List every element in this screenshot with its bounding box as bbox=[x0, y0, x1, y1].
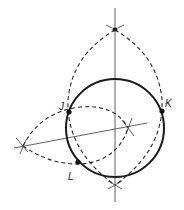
point-l bbox=[75, 159, 80, 164]
label-k: K bbox=[165, 98, 173, 109]
label-j: J bbox=[58, 101, 65, 112]
construction-diagram: J K L bbox=[0, 0, 184, 210]
point-k bbox=[159, 108, 164, 113]
construction-arc-from-j bbox=[115, 30, 162, 185]
point-j bbox=[66, 109, 71, 114]
label-l: L bbox=[68, 171, 74, 182]
construction-arc-from-k bbox=[68, 30, 115, 185]
